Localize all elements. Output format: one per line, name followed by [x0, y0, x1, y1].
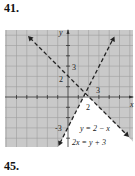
- x-axis-label: x: [129, 100, 134, 109]
- y-intercept-label-neg3: -3: [55, 124, 62, 133]
- y-axis-label: y: [58, 28, 63, 37]
- y-tick-label-3: 3: [72, 63, 76, 72]
- x-tick-label-3: 3: [96, 86, 100, 95]
- y-intercept-label-2: 2: [59, 75, 63, 84]
- equation-label-2: 2x = y + 3: [72, 138, 106, 147]
- problem-number: 45.: [4, 159, 19, 174]
- inequality-graph: y x 3 2 3 2 -3 y = 2 − x 2x = y + 3: [0, 0, 135, 176]
- x-intercept-label-2: 2: [86, 103, 90, 112]
- equation-label-1: y = 2 − x: [79, 124, 110, 133]
